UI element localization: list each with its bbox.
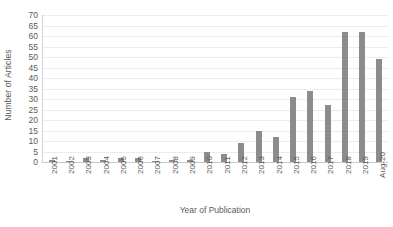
x-axis-tick-2011: 2011	[224, 156, 232, 173]
x-axis-tick-2018: 2018	[345, 156, 353, 174]
x-axis-tick-2007: 2007	[154, 156, 162, 174]
x-axis-tick-2009: 2009	[189, 156, 197, 174]
x-tick-slot: 2013	[250, 164, 267, 202]
bar-chart-figure: Number of Articles 051015202530354045505…	[0, 0, 393, 227]
x-tick-slot: 2011	[215, 164, 232, 202]
bar-slot	[60, 15, 77, 162]
x-axis-tick-2013: 2013	[258, 156, 266, 174]
bar-slot	[78, 15, 95, 162]
bar-slot	[371, 15, 388, 162]
bar-slot	[129, 15, 146, 162]
bar-2015	[290, 97, 296, 162]
bar-slot	[233, 15, 250, 162]
x-tick-slot: 2003	[77, 164, 94, 202]
x-tick-slot: 2001	[42, 164, 59, 202]
x-tick-slot: 2008	[163, 164, 180, 202]
bar-slot	[250, 15, 267, 162]
x-axis-tick-2017: 2017	[327, 156, 335, 174]
bar-slot	[285, 15, 302, 162]
x-tick-slot: 2004	[94, 164, 111, 202]
bar-Aug-20	[376, 59, 382, 162]
x-axis-title: Year of Publication	[42, 205, 388, 215]
x-tick-slot: 2017	[319, 164, 336, 202]
x-axis-tick-2012: 2012	[241, 156, 249, 174]
y-axis-tick-0: 0	[33, 158, 38, 167]
bar-2017	[325, 105, 331, 162]
x-axis-tick-2008: 2008	[172, 156, 180, 174]
bars-series	[43, 15, 388, 162]
bar-slot	[198, 15, 215, 162]
x-axis-tick-2016: 2016	[310, 156, 318, 174]
y-axis-tick-labels: 0510152025303540455055606570	[16, 15, 40, 163]
x-axis-tick-2015: 2015	[293, 156, 301, 174]
x-tick-slot: 2012	[232, 164, 249, 202]
x-axis-tick-2019: 2019	[362, 156, 370, 174]
x-axis-tick-2010: 2010	[206, 156, 214, 174]
y-axis-tick-25: 25	[29, 105, 38, 114]
bar-2018	[342, 32, 348, 162]
bar-2016	[307, 91, 313, 162]
bar-slot	[43, 15, 60, 162]
bar-slot	[216, 15, 233, 162]
y-axis-tick-30: 30	[29, 95, 38, 104]
bar-slot	[95, 15, 112, 162]
x-axis-tick-2003: 2003	[85, 156, 93, 174]
x-tick-slot: 2019	[353, 164, 370, 202]
x-tick-slot: 2010	[198, 164, 215, 202]
x-axis-tick-2005: 2005	[120, 156, 128, 174]
bar-slot	[181, 15, 198, 162]
x-tick-slot: 2007	[146, 164, 163, 202]
y-axis-tick-55: 55	[29, 42, 38, 51]
y-axis-tick-65: 65	[29, 21, 38, 30]
x-tick-slot: 2014	[267, 164, 284, 202]
x-axis-tick-2001: 2001	[51, 156, 59, 174]
x-axis-tick-Aug-20: Aug-20	[379, 152, 387, 178]
plot-area	[42, 15, 388, 163]
x-tick-slot: 2016	[301, 164, 318, 202]
bar-slot	[336, 15, 353, 162]
y-axis-tick-20: 20	[29, 116, 38, 125]
x-tick-slot: 2006	[128, 164, 145, 202]
y-axis-tick-60: 60	[29, 32, 38, 41]
bar-slot	[112, 15, 129, 162]
x-axis-tick-2004: 2004	[103, 156, 111, 174]
x-axis-tick-2002: 2002	[68, 156, 76, 174]
bar-slot	[354, 15, 371, 162]
x-axis-tick-2006: 2006	[137, 156, 145, 174]
x-tick-slot: 2009	[180, 164, 197, 202]
bar-slot	[302, 15, 319, 162]
bar-slot	[164, 15, 181, 162]
y-axis-tick-40: 40	[29, 74, 38, 83]
y-axis-tick-70: 70	[29, 11, 38, 20]
y-axis-title-label: Number of Articles	[3, 49, 13, 120]
y-axis-title: Number of Articles	[0, 0, 16, 170]
x-tick-slot: 2005	[111, 164, 128, 202]
x-tick-slot: 2002	[59, 164, 76, 202]
bar-slot	[147, 15, 164, 162]
x-tick-slot: 2018	[336, 164, 353, 202]
y-axis-tick-50: 50	[29, 53, 38, 62]
bar-2019	[359, 32, 365, 162]
y-axis-tick-5: 5	[33, 147, 38, 156]
bar-slot	[267, 15, 284, 162]
y-axis-tick-35: 35	[29, 84, 38, 93]
x-axis-tick-labels: 2001200220032004200520062007200820092010…	[42, 164, 388, 202]
x-axis-tick-2014: 2014	[276, 156, 284, 174]
y-axis-tick-45: 45	[29, 63, 38, 72]
bar-slot	[319, 15, 336, 162]
x-tick-slot: Aug-20	[371, 164, 388, 202]
y-axis-tick-15: 15	[29, 126, 38, 135]
x-tick-slot: 2015	[284, 164, 301, 202]
y-axis-tick-10: 10	[29, 137, 38, 146]
